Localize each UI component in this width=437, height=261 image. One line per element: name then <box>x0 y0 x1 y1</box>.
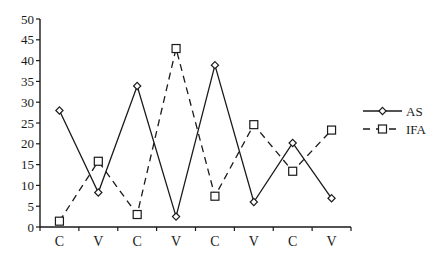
diamond-marker <box>250 198 257 205</box>
series-line <box>59 49 331 222</box>
x-category-label: C <box>210 234 219 249</box>
y-tick-label: 15 <box>21 157 34 172</box>
legend-item-as: AS <box>363 104 423 119</box>
diamond-marker <box>379 107 386 114</box>
square-marker <box>133 211 141 219</box>
x-category-label: V <box>327 234 337 249</box>
y-tick-label: 20 <box>21 136 34 151</box>
y-tick-label: 50 <box>21 12 34 27</box>
axes: 05101520253035404550CVCVCVCV <box>21 12 351 250</box>
x-category-label: V <box>171 234 181 249</box>
y-tick-label: 30 <box>21 95 34 110</box>
series-group <box>55 45 335 226</box>
series-ifa <box>55 45 335 226</box>
square-marker <box>94 157 102 165</box>
square-marker <box>379 125 387 133</box>
legend-label: AS <box>406 104 423 119</box>
x-category-label: V <box>93 234 103 249</box>
square-marker <box>211 192 219 200</box>
diamond-marker <box>134 82 141 89</box>
legend: ASIFA <box>363 104 427 137</box>
square-marker <box>250 121 258 129</box>
y-tick-label: 10 <box>21 178 34 193</box>
legend-item-ifa: IFA <box>363 122 427 137</box>
x-category-label: C <box>55 234 64 249</box>
y-tick-label: 5 <box>28 199 35 214</box>
diamond-marker <box>56 107 63 114</box>
series-as <box>56 62 335 221</box>
y-tick-label: 35 <box>21 74 34 89</box>
square-marker <box>172 45 180 53</box>
y-tick-label: 0 <box>28 220 35 235</box>
y-tick-label: 25 <box>21 116 34 131</box>
y-tick-label: 40 <box>21 53 34 68</box>
y-tick-label: 45 <box>21 32 34 47</box>
line-chart: 05101520253035404550CVCVCVCV ASIFA <box>0 0 437 261</box>
x-category-label: C <box>288 234 297 249</box>
square-marker <box>328 126 336 134</box>
x-category-label: C <box>133 234 142 249</box>
square-marker <box>55 217 63 225</box>
diamond-marker <box>95 189 102 196</box>
diamond-marker <box>211 62 218 69</box>
diamond-marker <box>172 213 179 220</box>
x-category-label: V <box>249 234 259 249</box>
legend-label: IFA <box>406 122 427 137</box>
square-marker <box>289 167 297 175</box>
